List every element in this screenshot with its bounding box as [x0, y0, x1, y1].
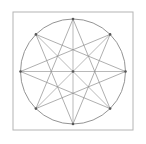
vertex-dot-center — [72, 70, 75, 73]
vertex-dot-NW — [35, 33, 38, 36]
compass-rose-figure — [0, 0, 146, 144]
vertex-dot-NE — [109, 33, 112, 36]
vertex-dot-N — [72, 18, 75, 21]
vertex-dot-E — [124, 70, 127, 73]
eight-point-star-drawing — [0, 0, 146, 144]
vertex-dot-W — [19, 70, 22, 73]
vertex-dot-SE — [109, 107, 112, 110]
vertex-dot-SW — [35, 107, 38, 110]
vertex-dot-S — [72, 123, 75, 126]
